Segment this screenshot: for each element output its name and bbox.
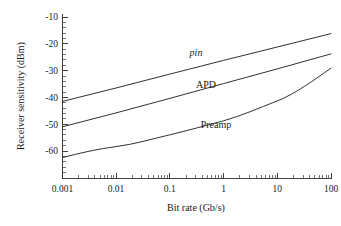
x-tick-label: 0.001 bbox=[52, 184, 74, 194]
x-tick-label: 1 bbox=[221, 184, 226, 194]
receiver-sensitivity-chart: -10 -20 -30 -40 -50 -60 bbox=[0, 0, 341, 226]
y-tick-label: -60 bbox=[45, 146, 58, 156]
y-tick-label: -20 bbox=[45, 39, 58, 49]
curve-label-apd: APD bbox=[196, 79, 216, 90]
y-axis-title: Receiver sensitivity (dBm) bbox=[15, 42, 27, 150]
x-tick-label: 0.01 bbox=[108, 184, 125, 194]
curve-label-pin: pin bbox=[189, 47, 203, 58]
y-tick-label: -40 bbox=[45, 93, 58, 103]
x-tick-label: 100 bbox=[324, 184, 339, 194]
x-tick-label: 10 bbox=[273, 184, 283, 194]
curve-label-preamp: Preamp bbox=[201, 119, 232, 130]
y-tick-label: -50 bbox=[45, 120, 58, 130]
y-tick-label: -10 bbox=[45, 12, 58, 22]
chart-figure: -10 -20 -30 -40 -50 -60 bbox=[0, 0, 341, 226]
x-tick-label: 0.1 bbox=[164, 184, 176, 194]
x-axis-title: Bit rate (Gb/s) bbox=[167, 202, 225, 214]
y-tick-label: -30 bbox=[45, 66, 58, 76]
